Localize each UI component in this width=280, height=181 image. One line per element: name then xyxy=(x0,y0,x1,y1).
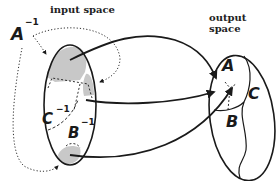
label-c-inverse-exponent: −1 xyxy=(56,104,70,114)
label-a-output: A xyxy=(222,56,234,75)
a-inverse-dotted-arrow-2 xyxy=(33,36,46,54)
input-space-title: input space xyxy=(50,4,115,15)
input-space xyxy=(44,45,96,165)
label-c-output: C xyxy=(248,84,260,103)
a-inverse-region xyxy=(47,47,86,82)
label-c-inverse: C xyxy=(42,110,53,128)
label-b-inverse: B xyxy=(68,124,79,142)
label-a-inverse: A xyxy=(11,24,24,44)
label-b-output: B xyxy=(226,112,238,131)
label-a-inverse-exponent: −1 xyxy=(25,17,39,27)
output-space-title: output space xyxy=(209,12,280,34)
label-b-inverse-exponent: −1 xyxy=(81,117,95,127)
mapping-arrow-middle xyxy=(86,92,214,103)
mapping-diagram: input space output space A −1 C −1 B −1 … xyxy=(0,0,280,181)
